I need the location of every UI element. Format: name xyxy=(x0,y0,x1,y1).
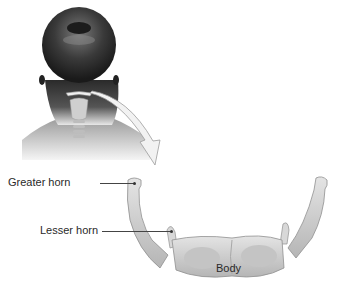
leader-line-lesser-horn xyxy=(102,231,171,232)
leader-dot-greater-horn xyxy=(133,182,136,185)
neck-illustration xyxy=(22,7,150,160)
leader-dot-lesser-horn xyxy=(170,230,173,233)
leader-line-greater-horn xyxy=(100,183,134,184)
hyoid-diagram xyxy=(0,0,345,301)
label-greater-horn: Greater horn xyxy=(8,176,70,188)
label-body: Body xyxy=(216,262,241,274)
label-lesser-horn: Lesser horn xyxy=(40,224,98,236)
